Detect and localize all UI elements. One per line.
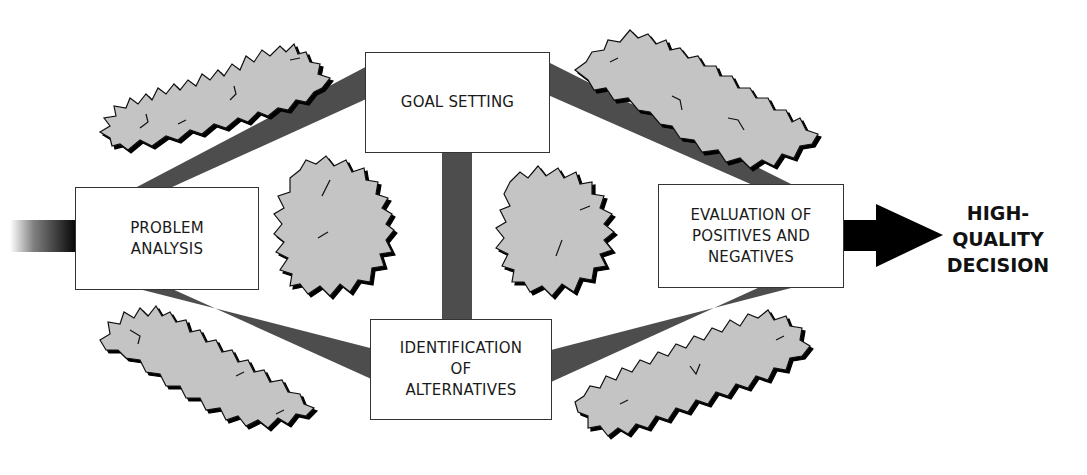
goal-setting-box: GOAL SETTING [365, 52, 550, 153]
problem-analysis-line-2: ANALYSIS [130, 239, 204, 260]
shrub-center-left-icon [274, 156, 394, 296]
input-arrow-shaft [10, 220, 78, 252]
identification-box: IDENTIFICATION OF ALTERNATIVES [370, 319, 552, 420]
shrub-bottom-right-icon [575, 310, 810, 436]
identification-line-1: IDENTIFICATION [400, 338, 522, 359]
outcome-line-3: DECISION [944, 252, 1052, 278]
output-arrow-icon [843, 204, 943, 267]
problem-analysis-line-1: PROBLEM [130, 218, 204, 239]
band-goal-to-identification [442, 152, 472, 320]
shrub-bottom-left-icon [100, 306, 314, 428]
evaluation-line-2: POSITIVES AND [690, 226, 811, 247]
evaluation-line-1: EVALUATION OF [690, 205, 811, 226]
outcome-label: HIGH- QUALITY DECISION [944, 200, 1052, 278]
shrub-top-left-icon [100, 44, 330, 150]
shrub-center-right-icon [496, 166, 614, 296]
identification-line-3: ALTERNATIVES [400, 380, 522, 401]
evaluation-line-3: NEGATIVES [690, 247, 811, 268]
problem-analysis-box: PROBLEM ANALYSIS [75, 187, 259, 290]
outcome-line-2: QUALITY [944, 226, 1052, 252]
evaluation-box: EVALUATION OF POSITIVES AND NEGATIVES [658, 184, 844, 288]
outcome-line-1: HIGH- [944, 200, 1052, 226]
goal-setting-line-1: GOAL SETTING [401, 92, 514, 113]
identification-line-2: OF [400, 359, 522, 380]
